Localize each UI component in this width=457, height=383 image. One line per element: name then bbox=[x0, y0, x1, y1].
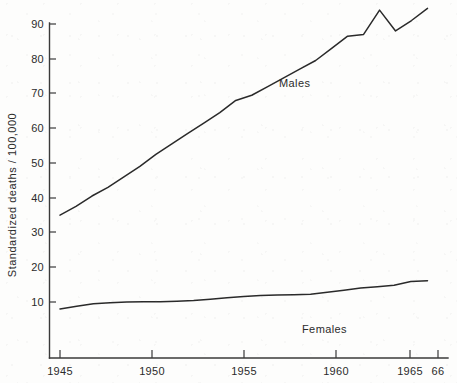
series-label-females: Females bbox=[302, 323, 347, 335]
chart-figure: Standardized deaths / 100,000 90 80 70 6… bbox=[0, 0, 457, 383]
x-tick-label-1965: 1965 bbox=[397, 365, 423, 377]
line-chart-canvas: Standardized deaths / 100,000 90 80 70 6… bbox=[0, 0, 457, 383]
data-line-females bbox=[60, 281, 428, 309]
y-tick-label-40: 40 bbox=[31, 192, 44, 204]
y-tick-label-10: 10 bbox=[31, 296, 44, 308]
y-tick-label-30: 30 bbox=[31, 226, 44, 238]
x-tick-label-1950: 1950 bbox=[139, 365, 165, 377]
y-axis-title: Standardized deaths / 100,000 bbox=[6, 113, 18, 277]
y-tick-label-80: 80 bbox=[31, 53, 44, 65]
y-tick-label-60: 60 bbox=[31, 122, 44, 134]
x-tick-label-1945: 1945 bbox=[47, 365, 73, 377]
y-tick-label-50: 50 bbox=[31, 157, 44, 169]
data-line-males bbox=[60, 8, 428, 215]
x-tick-label-1960: 1960 bbox=[323, 365, 349, 377]
series-label-males: Males bbox=[279, 77, 310, 89]
y-tick-label-70: 70 bbox=[31, 87, 44, 99]
y-tick-label-20: 20 bbox=[31, 261, 44, 273]
x-tick-label-1955: 1955 bbox=[231, 365, 257, 377]
x-tick-label-1966: 66 bbox=[432, 365, 445, 377]
y-tick-label-90: 90 bbox=[31, 18, 44, 30]
